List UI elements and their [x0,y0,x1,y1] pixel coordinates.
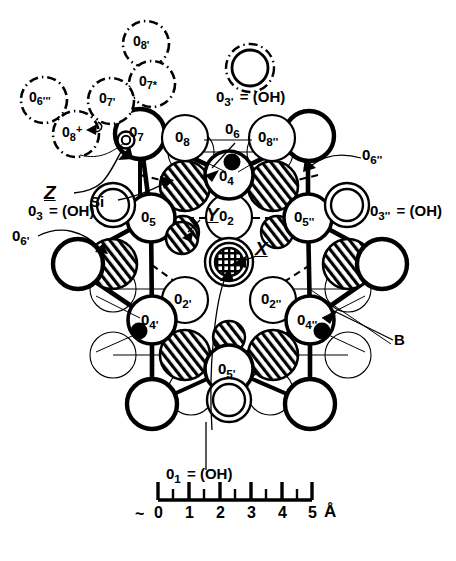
scale-tick-1: 1 [185,505,194,521]
atom-label-o2dprime: 02'' [261,291,281,309]
ghost-label-o8plus: 08+ [62,124,82,143]
atom-label-o2: 02 [219,208,234,226]
atom-label-o8: 08 [175,129,190,147]
atom-label-o4dprime: 04'' [297,312,317,330]
legend-o3-left: 03 = (OH) [28,203,94,221]
callout-axis-z: Z [44,183,56,202]
scale-prefix: ~ [135,506,144,522]
legend-o3prime: 03' = (OH) [216,89,285,107]
callout-axis-y: Y [206,205,219,224]
ghost-label-o6tripleprime: 06''' [29,90,51,107]
callout-b-site: B [394,332,405,347]
atom-label-o5prime: 05' [218,361,236,379]
atom-label-o4prime: 04' [141,312,159,330]
callout-o6dprime: 06'' [362,147,382,165]
scale-tick-4: 4 [278,505,287,521]
scale-bar [158,482,312,500]
atom-label-o7: 07 [129,124,144,142]
callout-o6prime: 06' [12,228,30,246]
callout-o6: 06 [225,121,240,139]
legend-o1-bottom: 01 = (OH) [166,466,232,484]
atom-label-o8dprime: 08'' [258,129,278,147]
atom-label-o5dprime: 05'' [294,209,314,227]
scale-unit-angstrom: Å [324,503,336,520]
ghost-label-o8prime: 08' [133,34,149,51]
scale-tick-5: 5 [308,505,317,521]
ghost-label-o7star: 07* [139,74,157,91]
scale-tick-3: 3 [247,505,256,521]
scale-tick-2: 2 [216,505,225,521]
atom-label-o4: 04 [219,168,234,186]
structure-group [21,21,407,500]
ghost-label-o7prime: 07' [99,91,115,108]
o3prime-legend-marker [226,44,274,92]
figure-canvas: 08' 07* 06''' 07' 08+ 03' = (OH) 07 08 0… [0,0,456,561]
legend-o3dprime-right: 03'' = (OH) [370,203,442,221]
atom-label-o2prime: 02' [174,291,192,309]
scale-tick-0: 0 [154,505,163,521]
callout-axis-x: X [255,239,268,258]
atom-label-o5: 05 [141,209,156,227]
